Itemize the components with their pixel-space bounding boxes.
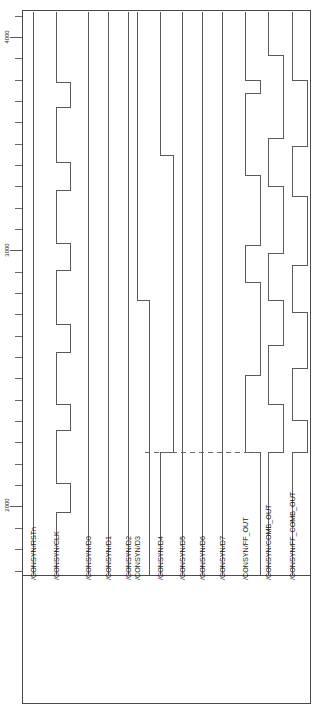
waveform-viewer[interactable]: 400030002000 /CONSYN/RSTn/CONSYN/CLK/CON…	[0, 0, 327, 711]
label-border	[22, 575, 310, 703]
axis-tick-label: 4000	[4, 30, 10, 44]
signal-label-d7[interactable]: /CONSYN/D7	[218, 536, 227, 580]
signal-trace-ffc_out[interactable]	[292, 12, 307, 575]
signal-label-d2[interactable]: /CONSYN/D2	[124, 536, 133, 580]
signal-trace-clk[interactable]	[56, 12, 70, 575]
signal-label-d0[interactable]: /CONSYN/D0	[84, 536, 93, 580]
signal-label-comb_out[interactable]: /CONSYN/COMB_OUT	[264, 504, 273, 580]
time-axis-labels: 400030002000	[4, 30, 10, 512]
plot-border	[22, 10, 310, 575]
signal-traces[interactable]	[33, 12, 307, 575]
axis-tick-label: 3000	[4, 243, 10, 257]
signal-label-d4[interactable]: /CONSYN/D4	[156, 536, 165, 580]
signal-label-d5[interactable]: /CONSYN/D5	[178, 536, 187, 580]
signal-trace-ff_out[interactable]	[245, 12, 260, 575]
signal-label-ff_out[interactable]: /CONSYN/FF_OUT	[241, 517, 250, 580]
signal-trace-d3[interactable]	[137, 12, 149, 575]
axis-tick-label: 2000	[4, 498, 10, 512]
signal-trace-d4[interactable]	[160, 12, 173, 575]
signal-label-d6[interactable]: /CONSYN/D6	[198, 536, 207, 580]
time-axis-ticks	[10, 16, 22, 571]
signal-label-d1[interactable]: /CONSYN/D1	[104, 536, 113, 580]
plot-frame	[22, 10, 310, 703]
signal-label-rstn[interactable]: /CONSYN/RSTn	[29, 527, 38, 580]
signal-label-ffc_out[interactable]: /CONSYN/FF_COMB_OUT	[288, 491, 297, 580]
waveform-canvas[interactable]: 400030002000 /CONSYN/RSTn/CONSYN/CLK/CON…	[0, 0, 327, 711]
signal-label-clk[interactable]: /CONSYN/CLK	[52, 531, 61, 580]
signal-trace-comb_out[interactable]	[268, 12, 283, 575]
signal-name-labels[interactable]: /CONSYN/RSTn/CONSYN/CLK/CONSYN/D0/CONSYN…	[29, 491, 297, 580]
signal-label-d3[interactable]: /CONSYN/D3	[133, 536, 142, 580]
